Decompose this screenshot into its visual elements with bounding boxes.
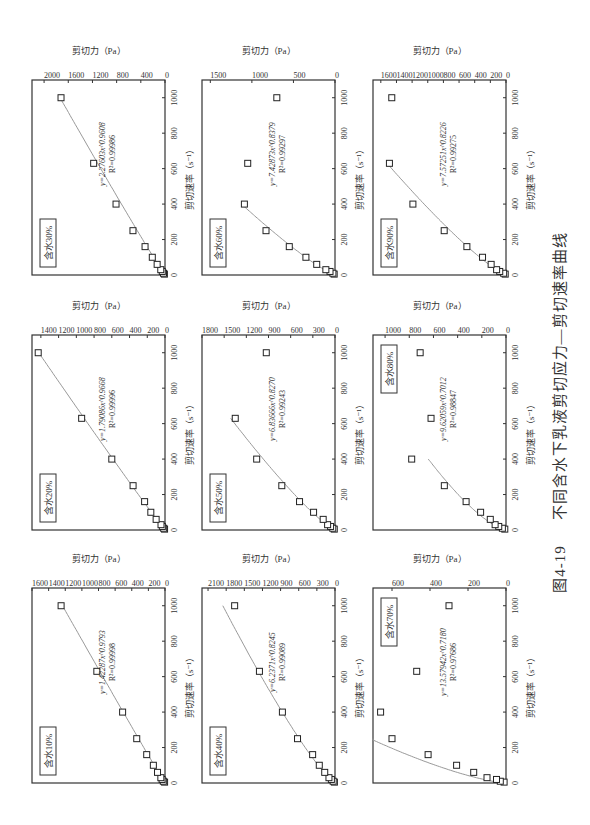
- fit-equation: y=6.2371x^0.8245: [268, 632, 277, 693]
- figure-title: 不同含水下乳液剪切应力—剪切速率曲线: [552, 232, 568, 520]
- chart-water-80: 0200400600800100002004006008001000剪切速率（s…: [373, 335, 555, 530]
- x-axis-label: 剪切速率（s⁻¹）: [354, 400, 365, 465]
- y-tick-label: 800: [94, 326, 106, 335]
- x-tick-label: 800: [170, 382, 179, 394]
- fit-equation: y=13.57942x^0.7180: [439, 628, 448, 697]
- data-point: [428, 415, 434, 421]
- data-point: [471, 769, 477, 775]
- legend-label: 含水80%: [384, 351, 395, 386]
- x-tick-label: 1000: [340, 345, 349, 361]
- y-tick-label: 1600: [381, 71, 397, 80]
- x-tick-label: 800: [511, 127, 520, 139]
- x-tick-label: 600: [170, 671, 179, 683]
- y-tick-label: 1000: [385, 326, 401, 335]
- data-point: [464, 244, 470, 250]
- data-point: [463, 499, 469, 505]
- data-point: [232, 603, 238, 609]
- chart-svg: 020040060080010000400800120016002000剪切速率…: [32, 80, 210, 275]
- fit-curve: [60, 98, 165, 275]
- y-tick-label: 900: [269, 326, 281, 335]
- data-point: [254, 456, 260, 462]
- y-tick-label: 1000: [82, 579, 98, 588]
- chart-svg: 02004006008001000050010001500剪切速率（s⁻¹）剪切…: [202, 80, 380, 275]
- x-tick-label: 1000: [511, 90, 520, 106]
- data-point: [274, 95, 280, 101]
- y-tick-label: 600: [112, 326, 124, 335]
- chart-water-70: 020040060080010000200400600剪切速率（s⁻¹）剪切力（…: [373, 588, 555, 783]
- x-tick-label: 400: [340, 198, 349, 210]
- y-tick-label: 900: [281, 579, 293, 588]
- x-tick-label: 0: [340, 781, 349, 785]
- y-tick-label: 0: [506, 579, 510, 588]
- x-tick-label: 200: [340, 234, 349, 246]
- chart-water-60: 02004006008001000050010001500剪切速率（s⁻¹）剪切…: [202, 80, 384, 275]
- data-point: [232, 415, 238, 421]
- data-point: [58, 95, 64, 101]
- fit-equation: y=9.62059x^0.7012: [439, 377, 448, 442]
- data-point: [322, 769, 328, 775]
- fit-equation: y=1.79086x^0.9668: [98, 377, 107, 442]
- x-tick-label: 400: [511, 198, 520, 210]
- data-point: [484, 775, 490, 781]
- data-point: [320, 516, 326, 522]
- legend-label: 含水50%: [213, 480, 224, 515]
- x-axis-label: 剪切速率（s⁻¹）: [525, 145, 536, 210]
- y-tick-label: 500: [293, 71, 305, 80]
- data-point: [153, 516, 159, 522]
- figure-caption: 图4-19 不同含水下乳液剪切应力—剪切速率曲线: [548, 0, 569, 825]
- x-tick-label: 1000: [340, 90, 349, 106]
- x-tick-label: 800: [511, 382, 520, 394]
- data-point: [130, 483, 136, 489]
- x-tick-label: 0: [511, 528, 520, 532]
- x-tick-label: 600: [170, 418, 179, 430]
- data-point: [311, 509, 317, 515]
- r-squared: R²=0.98847: [449, 390, 458, 428]
- y-tick-label: 1600: [68, 71, 84, 80]
- y-tick-label: 1200: [262, 579, 278, 588]
- data-point: [155, 769, 161, 775]
- y-tick-label: 0: [506, 326, 510, 335]
- data-point: [417, 350, 423, 356]
- data-point: [441, 483, 447, 489]
- y-tick-label: 0: [335, 579, 339, 588]
- legend-label: 含水90%: [384, 225, 395, 260]
- chart-water-10: 0200400600800100002004006008001000120014…: [32, 588, 214, 783]
- data-point: [297, 499, 303, 505]
- x-tick-label: 800: [170, 127, 179, 139]
- x-tick-label: 600: [170, 163, 179, 175]
- x-axis-label: 剪切速率（s⁻¹）: [184, 653, 195, 718]
- chart-water-90: 0200400600800100002004006008001000120014…: [373, 80, 555, 275]
- data-point: [263, 228, 269, 234]
- chart-water-40: 0200400600800100003006009001200150018002…: [202, 588, 384, 783]
- legend-label: 含水40%: [213, 733, 224, 768]
- fit-curve: [223, 606, 335, 783]
- x-tick-label: 0: [340, 528, 349, 532]
- x-tick-label: 0: [511, 781, 520, 785]
- data-point: [454, 762, 460, 768]
- x-tick-label: 400: [170, 453, 179, 465]
- chart-svg: 0200400600800100003006009001200150018002…: [202, 588, 380, 783]
- y-tick-label: 400: [475, 71, 487, 80]
- fit-curve: [231, 418, 335, 530]
- data-point: [389, 736, 395, 742]
- y-tick-label: 1200: [412, 71, 428, 80]
- fit-equation: y=1.42287x^0.9793: [98, 630, 107, 695]
- data-point: [441, 228, 447, 234]
- x-tick-label: 800: [511, 635, 520, 647]
- x-tick-label: 1000: [511, 345, 520, 361]
- data-point: [109, 456, 115, 462]
- y-tick-label: 600: [459, 71, 471, 80]
- x-tick-label: 800: [170, 635, 179, 647]
- data-point: [414, 668, 420, 674]
- y-axis-label: 剪切力（Pa）: [413, 300, 467, 311]
- x-tick-label: 200: [170, 234, 179, 246]
- y-tick-label: 1200: [65, 579, 81, 588]
- y-tick-label: 1200: [92, 71, 108, 80]
- y-tick-label: 1500: [244, 579, 260, 588]
- chart-svg: 0200400600800100002004006008001000120014…: [373, 80, 551, 275]
- x-tick-label: 200: [340, 742, 349, 754]
- y-tick-label: 800: [99, 579, 111, 588]
- legend-label: 含水70%: [384, 604, 395, 639]
- x-tick-label: 400: [170, 706, 179, 718]
- chart-svg: 020040060080010000300600900120015001800剪…: [202, 335, 380, 530]
